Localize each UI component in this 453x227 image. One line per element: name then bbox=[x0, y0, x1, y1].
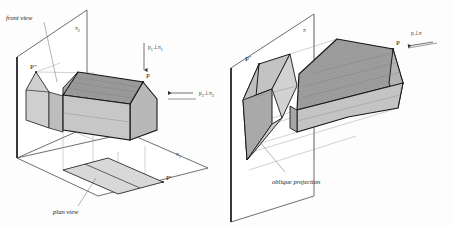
point-p-double-prime-label: P′′ bbox=[30, 63, 37, 71]
point-p-star-marker bbox=[258, 63, 260, 65]
plan-view-label: plan view bbox=[52, 208, 79, 215]
oblique-projection-caption: oblique projection bbox=[272, 178, 321, 185]
house-right-end-wall bbox=[290, 106, 297, 132]
point-p-right-marker bbox=[392, 48, 394, 50]
point-p-right-label: P bbox=[396, 39, 400, 47]
point-p-label: P bbox=[146, 72, 150, 80]
front-view-label: front view bbox=[6, 14, 33, 21]
point-p-double-prime-marker bbox=[35, 71, 37, 73]
front-view-side bbox=[49, 92, 63, 132]
point-p-prime-marker bbox=[162, 181, 164, 183]
point-p-prime-label: P′ bbox=[166, 174, 172, 182]
plane-pi-label: π bbox=[303, 27, 306, 33]
projection-diagram: front view plan view P P′′ P′ π2 π1 p1⊥π… bbox=[0, 0, 453, 227]
figure-canvas: front view plan view P P′′ P′ π2 π1 p1⊥π… bbox=[0, 0, 453, 227]
point-p-marker bbox=[142, 81, 144, 83]
direction-p-oblique-label: p⊥π bbox=[411, 30, 422, 36]
